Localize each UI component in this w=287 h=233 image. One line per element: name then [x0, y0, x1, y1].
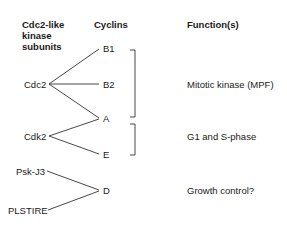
function-mpf: Mitotic kinase (MPF): [187, 79, 274, 90]
kinase-plstire: PLSTIRE: [8, 205, 48, 216]
cyclin-e: E: [103, 149, 109, 160]
cyclin-a: A: [103, 113, 109, 124]
kinase-psk-j3: Psk-J3: [16, 166, 45, 177]
kinase-cdk2: Cdk2: [24, 131, 46, 142]
function-g1-s: G1 and S-phase: [187, 131, 256, 142]
kinase-cdc2: Cdc2: [24, 79, 46, 90]
connector-lines: [0, 0, 287, 233]
cyclin-b2: B2: [103, 79, 115, 90]
function-growth-control: Growth control?: [187, 185, 254, 196]
cyclin-b1: B1: [103, 43, 115, 54]
cyclin-d: D: [103, 185, 110, 196]
